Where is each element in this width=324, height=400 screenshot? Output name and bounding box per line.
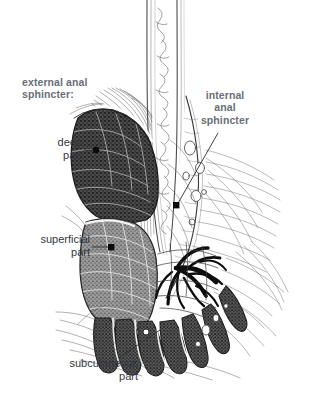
superficial-part-mass [80,218,157,332]
internal-sphincter-marker [173,202,179,208]
label-subcutaneous-part: subcutaneous part [28,357,138,383]
label-superficial-part: superficial part [10,233,90,259]
label-internal-anal-sphincter: internal anal sphincter [192,89,258,126]
label-deep-part: deep part [22,136,82,162]
deep-part-marker [93,147,100,154]
anatomy-artwork [0,0,324,400]
superficial-part-marker [108,244,114,250]
anatomical-figure: external anal sphincter: internal anal s… [0,0,324,400]
deep-part-mass [71,107,158,223]
rectal-mucosa-column [156,8,170,234]
subcutaneous-part-marker [143,329,149,335]
label-external-anal-sphincter: external anal sphincter: [22,76,142,101]
